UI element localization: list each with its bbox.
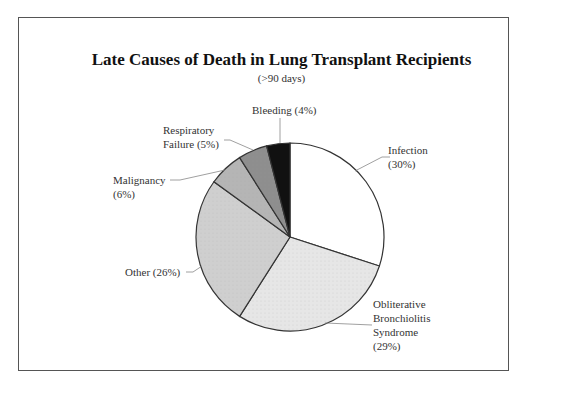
label-malignancy: Malignancy (6%) [113, 173, 166, 201]
leader-other [186, 266, 202, 272]
leader-respiratory [224, 140, 253, 150]
label-respiratory-failure: Respiratory Failure (5%) [163, 123, 219, 151]
label-infection: Infection (30%) [388, 143, 428, 171]
leader-infection [355, 157, 390, 171]
label-obliterative-bronchiolitis: Obliterative Bronchiolitis Syndrome (29%… [373, 297, 430, 353]
pie-chart [0, 0, 563, 395]
label-bleeding: Bleeding (4%) [252, 103, 316, 117]
label-other: Other (26%) [125, 265, 180, 279]
leader-obs [325, 323, 372, 325]
